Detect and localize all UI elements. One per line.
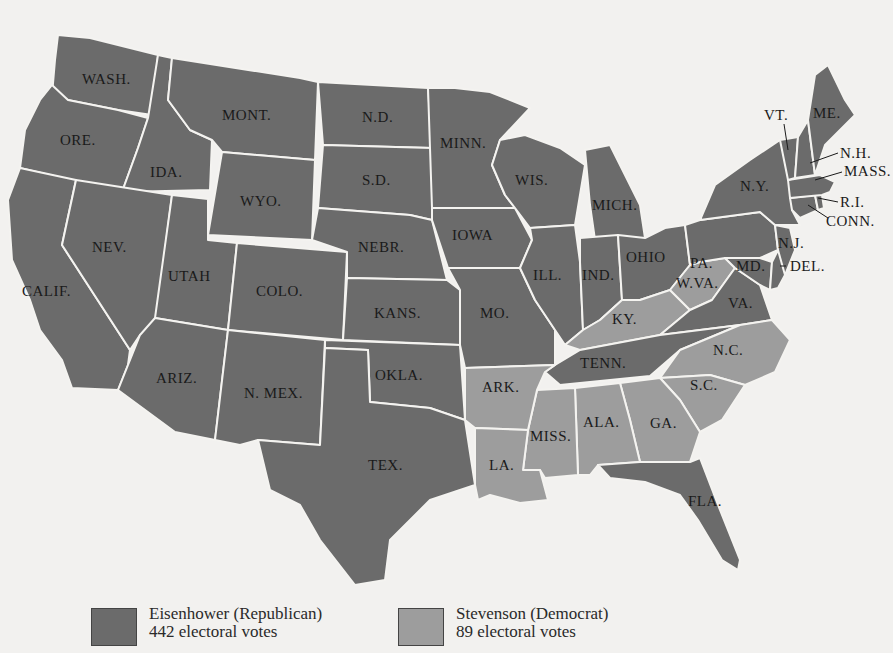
svg-text:KANS.: KANS. bbox=[374, 305, 421, 321]
svg-text:CONN.: CONN. bbox=[826, 213, 875, 229]
svg-text:UTAH: UTAH bbox=[168, 268, 210, 284]
svg-text:GA.: GA. bbox=[650, 415, 677, 431]
svg-text:PA.: PA. bbox=[690, 255, 713, 271]
svg-text:VT.: VT. bbox=[764, 107, 788, 123]
svg-text:N.Y.: N.Y. bbox=[740, 178, 769, 194]
svg-text:OHIO: OHIO bbox=[626, 249, 666, 265]
svg-text:TENN.: TENN. bbox=[580, 355, 626, 371]
svg-text:LA.: LA. bbox=[489, 457, 514, 473]
svg-text:COLO.: COLO. bbox=[256, 283, 303, 299]
svg-text:MO.: MO. bbox=[480, 305, 509, 321]
svg-text:N. MEX.: N. MEX. bbox=[244, 385, 303, 401]
legend-votes-democrat: 89 electoral votes bbox=[456, 623, 608, 641]
svg-text:WASH.: WASH. bbox=[82, 71, 131, 87]
election-map: WASH. ORE. CALIF. IDA. NEV. MONT. WYO. U… bbox=[0, 0, 893, 653]
svg-text:ILL.: ILL. bbox=[533, 267, 562, 283]
legend-label-democrat: Stevenson (Democrat) bbox=[456, 605, 608, 623]
legend-swatch-republican bbox=[91, 608, 137, 646]
svg-text:N.J.: N.J. bbox=[778, 235, 804, 251]
svg-text:MD.: MD. bbox=[736, 258, 765, 274]
svg-text:FLA.: FLA. bbox=[688, 493, 722, 509]
svg-text:OKLA.: OKLA. bbox=[375, 367, 423, 383]
svg-text:MASS.: MASS. bbox=[844, 163, 891, 179]
svg-text:N.C.: N.C. bbox=[713, 342, 743, 358]
svg-text:IDA.: IDA. bbox=[150, 164, 182, 180]
svg-text:R.I.: R.I. bbox=[840, 194, 865, 210]
svg-text:CALIF.: CALIF. bbox=[22, 283, 71, 299]
legend-label-republican: Eisenhower (Republican) bbox=[149, 605, 322, 623]
svg-text:N.D.: N.D. bbox=[362, 109, 393, 125]
svg-text:WYO.: WYO. bbox=[240, 193, 282, 209]
svg-text:DEL.: DEL. bbox=[790, 258, 825, 274]
state-fla bbox=[598, 458, 740, 570]
svg-text:ARK.: ARK. bbox=[482, 379, 519, 395]
svg-text:MISS.: MISS. bbox=[530, 428, 571, 444]
legend-votes-republican: 442 electoral votes bbox=[149, 623, 322, 641]
legend-swatch-democrat bbox=[398, 608, 444, 646]
svg-text:NEV.: NEV. bbox=[92, 239, 127, 255]
state-mich bbox=[585, 145, 645, 240]
svg-text:ALA.: ALA. bbox=[583, 414, 620, 430]
svg-text:ORE.: ORE. bbox=[60, 132, 96, 148]
svg-text:S.D.: S.D. bbox=[362, 172, 391, 188]
svg-text:ARIZ.: ARIZ. bbox=[156, 370, 197, 386]
svg-text:MICH.: MICH. bbox=[592, 197, 637, 213]
svg-text:N.H.: N.H. bbox=[840, 145, 871, 161]
svg-text:MONT.: MONT. bbox=[222, 107, 271, 123]
svg-text:WIS.: WIS. bbox=[515, 172, 548, 188]
svg-text:W.VA.: W.VA. bbox=[676, 275, 719, 291]
svg-text:KY.: KY. bbox=[612, 311, 637, 327]
svg-text:IOWA: IOWA bbox=[452, 227, 493, 243]
svg-text:VA.: VA. bbox=[728, 295, 753, 311]
svg-text:S.C.: S.C. bbox=[690, 377, 718, 393]
legend-republican: Eisenhower (Republican) 442 electoral vo… bbox=[91, 605, 322, 646]
legend-democrat: Stevenson (Democrat) 89 electoral votes bbox=[398, 605, 608, 646]
svg-text:ME.: ME. bbox=[813, 105, 841, 121]
svg-text:TEX.: TEX. bbox=[368, 457, 403, 473]
svg-text:NEBR.: NEBR. bbox=[358, 239, 404, 255]
svg-text:IND.: IND. bbox=[582, 267, 614, 283]
svg-text:MINN.: MINN. bbox=[440, 135, 486, 151]
